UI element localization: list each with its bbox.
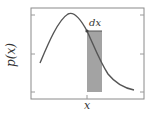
x-axis-label: x [82,99,92,112]
shaded-area-dx [87,31,102,92]
curve-point-marker [85,29,88,32]
dx-annotation: dx [89,17,101,28]
y-axis-label: p(x) [2,40,20,70]
density-plot: p(x) x dx [0,0,152,117]
plot-svg [0,0,152,117]
